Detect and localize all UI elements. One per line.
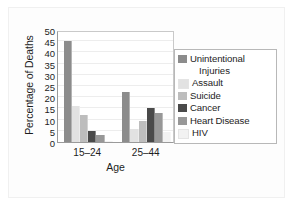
y-axis-tick: 35 — [38, 60, 55, 69]
bar — [147, 108, 155, 142]
bar-group — [64, 32, 113, 142]
legend-label: Cancer — [190, 102, 220, 114]
bar — [96, 135, 104, 142]
bar — [130, 129, 138, 142]
y-axis-tick: 25 — [38, 83, 55, 92]
bar — [139, 121, 147, 142]
legend-item: Heart Disease — [178, 115, 273, 127]
bar — [72, 106, 80, 142]
bar — [105, 141, 113, 142]
legend-item: Cancer — [178, 102, 273, 114]
legend-label: Suicide — [190, 90, 221, 102]
bar — [155, 113, 163, 142]
x-axis-tick: 15–24 — [62, 147, 112, 158]
y-axis-tick: 45 — [38, 38, 55, 47]
legend-item: Unintentional — [178, 53, 273, 65]
bars-layer — [58, 32, 173, 142]
legend-label: Unintentional — [190, 53, 245, 65]
y-axis-tick: 50 — [38, 27, 55, 36]
legend-swatch — [178, 55, 187, 63]
plot-area — [57, 31, 174, 143]
y-axis-tick: 0 — [38, 139, 55, 148]
legend-label: HIV — [192, 127, 208, 139]
y-axis-tick: 40 — [38, 49, 55, 58]
legend-label: Assault — [192, 77, 223, 89]
y-axis-tick: 5 — [38, 127, 55, 136]
legend-swatch — [178, 117, 187, 125]
legend-swatch — [178, 129, 189, 139]
bar-group — [122, 32, 171, 142]
chart-legend: UnintentionalInjuriesAssaultSuicideCance… — [174, 49, 277, 144]
legend-label: Heart Disease — [190, 115, 250, 127]
bar — [80, 115, 88, 142]
bar — [88, 131, 96, 142]
legend-swatch — [178, 79, 189, 89]
y-axis-tick: 30 — [38, 71, 55, 80]
y-axis-tick: 20 — [38, 94, 55, 103]
legend-item: HIV — [178, 127, 273, 139]
legend-item: Assault — [178, 77, 273, 89]
bar — [64, 41, 72, 142]
legend-label-continuation: Injuries — [178, 65, 273, 77]
figure-card: Percentage of Deaths 0510152025303540455… — [0, 0, 293, 205]
y-axis-tick: 10 — [38, 116, 55, 125]
x-axis-title: Age — [57, 161, 174, 173]
y-axis-tick-labels: 05101520253035404550 — [38, 26, 55, 143]
legend-swatch — [178, 92, 187, 100]
bar — [163, 132, 171, 142]
legend-item: Suicide — [178, 90, 273, 102]
x-axis-tick: 25–44 — [121, 147, 171, 158]
legend-swatch — [178, 104, 187, 112]
y-axis-tick: 15 — [38, 105, 55, 114]
bar — [122, 92, 130, 142]
y-axis-title: Percentage of Deaths — [23, 25, 35, 145]
